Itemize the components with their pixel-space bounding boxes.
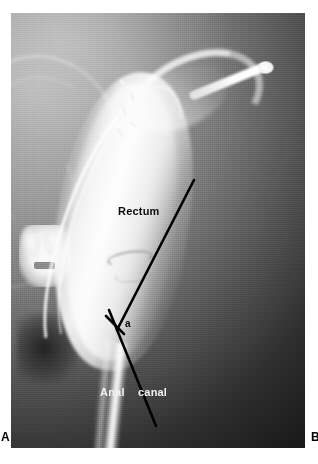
radiograph-image <box>11 13 305 448</box>
label-anal-canal-word2: canal <box>138 386 167 398</box>
panel-letter-b: B <box>311 430 318 444</box>
label-anal-canal-word1: Anal <box>100 386 125 398</box>
angle-tick-mark <box>106 316 124 334</box>
rectal-axis-line <box>117 180 194 330</box>
figure-panel: Rectum Anal canal a A B <box>0 0 318 464</box>
label-rectum: Rectum <box>118 205 160 217</box>
annotation-overlay <box>11 13 305 448</box>
panel-letter-a: A <box>1 430 10 444</box>
label-anorectal-angle: a <box>125 318 131 329</box>
